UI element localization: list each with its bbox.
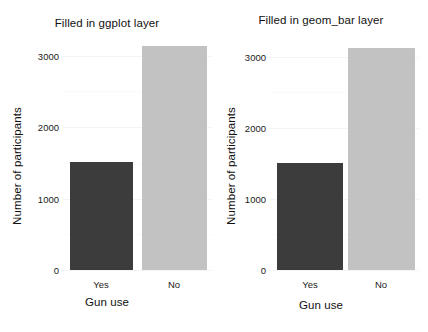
plot-area: 3000 2000 1000 0 Yes No bbox=[66, 46, 208, 270]
bar-yes[interactable] bbox=[277, 163, 343, 270]
y-axis-title-label: Number of participants bbox=[11, 107, 23, 225]
bar-yes[interactable] bbox=[70, 162, 133, 270]
y-axis-title: Number of participants bbox=[8, 0, 26, 332]
y-tick-label: 2000 bbox=[245, 123, 266, 134]
x-tick-label-yes: Yes bbox=[302, 279, 318, 290]
y-axis-title: Number of participants bbox=[222, 0, 240, 332]
panel-title: Filled in geom_bar layer bbox=[214, 13, 428, 27]
y-tick-label: 1000 bbox=[245, 194, 266, 205]
y-axis-title-label: Number of participants bbox=[225, 107, 237, 225]
y-tick-label: 3000 bbox=[38, 51, 59, 62]
plot-area: 3000 2000 1000 0 Yes No bbox=[273, 48, 415, 270]
x-tick-label-no: No bbox=[375, 279, 387, 290]
x-tick-label-yes: Yes bbox=[93, 279, 109, 290]
y-tick-label: 1000 bbox=[38, 194, 59, 205]
x-axis-title: Gun use bbox=[214, 299, 428, 311]
y-tick-label: 2000 bbox=[38, 122, 59, 133]
figure-container: Filled in ggplot layer Number of partici… bbox=[0, 0, 428, 332]
y-tick-label: 0 bbox=[261, 265, 266, 276]
chart-panel-geombar: Filled in geom_bar layer Number of parti… bbox=[214, 0, 428, 332]
gridline-0 bbox=[62, 270, 212, 271]
bar-no[interactable] bbox=[348, 48, 415, 270]
x-axis-title: Gun use bbox=[0, 296, 214, 308]
gridline-0 bbox=[269, 270, 419, 271]
bar-no[interactable] bbox=[142, 46, 207, 270]
y-tick-label: 3000 bbox=[245, 52, 266, 63]
panel-title: Filled in ggplot layer bbox=[0, 16, 214, 30]
y-tick-label: 0 bbox=[54, 265, 59, 276]
chart-panel-ggplot: Filled in ggplot layer Number of partici… bbox=[0, 0, 214, 332]
x-tick-label-no: No bbox=[168, 279, 180, 290]
